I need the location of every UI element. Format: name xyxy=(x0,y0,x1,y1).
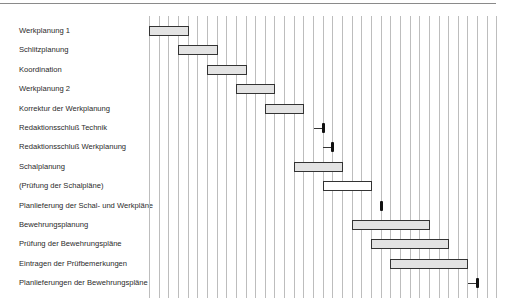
grid-line xyxy=(487,16,488,298)
milestone-arrow-icon xyxy=(468,283,476,284)
grid-line xyxy=(352,16,353,298)
grid-line xyxy=(168,16,169,298)
grid-line xyxy=(371,16,372,298)
grid-line xyxy=(294,16,295,298)
grid-line xyxy=(226,16,227,298)
grid-line xyxy=(390,16,391,298)
grid-line xyxy=(178,16,179,298)
grid-line xyxy=(477,16,478,298)
grid-line xyxy=(207,16,208,298)
task-bar xyxy=(294,162,343,172)
grid-line xyxy=(458,16,459,298)
grid-line xyxy=(361,16,362,298)
task-bar xyxy=(178,45,218,55)
grid-line xyxy=(429,16,430,298)
grid-line xyxy=(496,16,497,298)
task-bar xyxy=(265,104,304,114)
grid-line xyxy=(342,16,343,298)
grid-line xyxy=(410,16,411,298)
grid-line xyxy=(265,16,266,298)
milestone-arrow-icon xyxy=(323,147,331,148)
grid-line xyxy=(303,16,304,298)
milestone-flag-icon xyxy=(331,142,334,152)
milestone-flag-icon xyxy=(322,123,325,133)
grid-line xyxy=(323,16,324,298)
milestone-flag-icon xyxy=(476,278,479,288)
task-bar xyxy=(390,259,468,269)
task-bar xyxy=(207,65,247,75)
grid-line xyxy=(439,16,440,298)
grid-line xyxy=(467,16,468,298)
grid-line xyxy=(381,16,382,298)
milestone-arrow-icon xyxy=(314,128,322,129)
gantt-grid xyxy=(0,0,513,308)
task-bar xyxy=(323,181,372,191)
grid-line xyxy=(274,16,275,298)
grid-line xyxy=(246,16,247,298)
grid-line xyxy=(400,16,401,298)
grid-line xyxy=(188,16,189,298)
task-bar xyxy=(149,26,189,36)
grid-line xyxy=(217,16,218,298)
task-bar xyxy=(236,84,275,94)
grid-line xyxy=(236,16,237,298)
grid-line xyxy=(284,16,285,298)
grid-line xyxy=(419,16,420,298)
grid-line xyxy=(197,16,198,298)
task-bar xyxy=(371,239,449,249)
grid-line xyxy=(313,16,314,298)
milestone-flag-icon xyxy=(380,201,383,211)
task-bar xyxy=(352,220,430,230)
grid-line xyxy=(332,16,333,298)
grid-line xyxy=(448,16,449,298)
grid-line xyxy=(159,16,160,298)
grid-line xyxy=(149,16,150,298)
grid-line xyxy=(255,16,256,298)
